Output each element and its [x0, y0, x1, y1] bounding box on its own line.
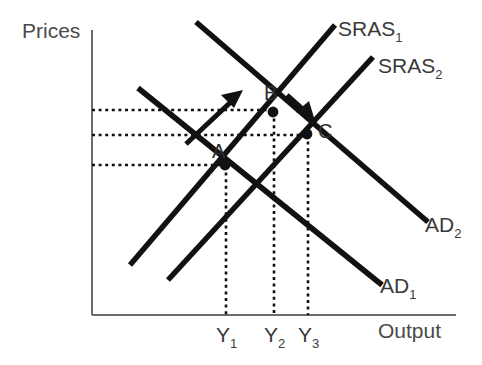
ad1-label: AD1: [380, 274, 416, 302]
sras2-label: SRAS2: [378, 54, 442, 82]
equilibrium-label-a: A: [212, 140, 226, 162]
ad-shift-arrow-shaft: [186, 99, 234, 144]
x-tick-y3-text: Y: [298, 323, 312, 346]
sras2-label-text: SRAS: [378, 54, 435, 77]
supply-curves-group: [130, 25, 373, 280]
x-axis-label: Output: [378, 319, 441, 342]
ad2-label: AD2: [425, 213, 461, 241]
sras1-label: SRAS1: [338, 17, 402, 45]
y-axis-label: Prices: [22, 19, 80, 42]
sras1-label-text: SRAS: [338, 17, 395, 40]
ad1-label-sub: 1: [409, 287, 416, 302]
x-tick-y1-text: Y: [216, 323, 230, 346]
x-tick-y3-sub: 3: [312, 336, 319, 351]
ad-shift-arrow: [186, 90, 243, 144]
equilibrium-point-b: [268, 107, 279, 118]
ad2-label-text: AD: [425, 213, 454, 236]
sras2-label-sub: 2: [435, 67, 442, 82]
equilibrium-point-c: [302, 129, 313, 140]
sras1-curve: [130, 25, 335, 265]
sras1-label-sub: 1: [395, 30, 402, 45]
ad1-label-text: AD: [380, 274, 409, 297]
ad1-curve: [138, 88, 382, 285]
x-tick-label-y2: Y2: [264, 323, 285, 351]
ad-as-diagram: Prices Output A B C SRAS1 SRAS2 AD1 AD2 …: [0, 0, 482, 365]
x-tick-label-y3: Y3: [298, 323, 319, 351]
diagram-canvas: Prices Output A B C SRAS1 SRAS2 AD1 AD2 …: [0, 0, 482, 365]
sras-shift-arrow: [287, 95, 315, 121]
x-tick-y2-sub: 2: [278, 336, 285, 351]
equilibrium-label-c: C: [318, 120, 332, 142]
equilibrium-label-b: B: [264, 82, 277, 104]
x-tick-label-y1: Y1: [216, 323, 237, 351]
ad2-label-sub: 2: [454, 226, 461, 241]
x-tick-y2-text: Y: [264, 323, 278, 346]
x-tick-y1-sub: 1: [230, 336, 237, 351]
